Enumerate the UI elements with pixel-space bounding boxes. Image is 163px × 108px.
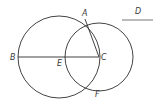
point-label-D: D [135, 7, 141, 16]
geometry-diagram: A B C D E F [0, 0, 163, 108]
point-label-E: E [57, 59, 63, 68]
segment-AC [85, 19, 99, 57]
point-label-C: C [101, 53, 107, 62]
point-label-B: B [10, 53, 16, 62]
point-label-A: A [81, 9, 87, 18]
point-label-F: F [95, 90, 100, 99]
